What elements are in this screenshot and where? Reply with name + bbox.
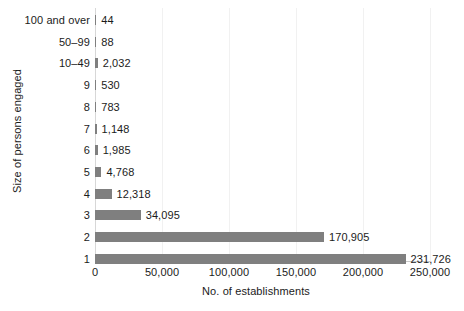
gridline [229, 8, 230, 262]
bar[interactable] [95, 124, 97, 134]
y-axis-tick-label: 8 [4, 101, 90, 113]
bar-chart: Size of persons engaged 100 and over50–9… [0, 0, 464, 311]
bar-value-label: 34,095 [146, 210, 180, 220]
bar-value-label: 231,726 [411, 254, 451, 264]
bar[interactable] [95, 189, 112, 199]
bar[interactable] [95, 145, 98, 155]
x-axis-title: No. of establishments [0, 285, 464, 297]
bar[interactable] [95, 37, 96, 47]
bar[interactable] [95, 210, 141, 220]
bar[interactable] [95, 232, 324, 242]
bar-value-label: 44 [101, 15, 113, 25]
bar-value-label: 88 [101, 37, 113, 47]
bar[interactable] [95, 254, 406, 264]
bar-value-label: 4,768 [106, 167, 134, 177]
gridline [430, 8, 431, 262]
y-axis-tick-label: 3 [4, 209, 90, 221]
y-axis-tick-label: 7 [4, 123, 90, 135]
bar-value-label: 12,318 [117, 189, 151, 199]
bar-value-label: 1,148 [102, 124, 130, 134]
y-axis-tick-label: 6 [4, 144, 90, 156]
bar[interactable] [95, 15, 96, 25]
bar-value-label: 530 [101, 80, 120, 90]
x-axis-tick-label: 100,000 [209, 266, 249, 278]
bar[interactable] [95, 102, 96, 112]
bar-value-label: 170,905 [329, 232, 369, 242]
y-axis-tick-label: 2 [4, 231, 90, 243]
y-axis-tick-label: 10–49 [4, 57, 90, 69]
gridline [363, 8, 364, 262]
x-axis-tick-label: 200,000 [343, 266, 383, 278]
x-axis-tick-label: 0 [92, 266, 98, 278]
y-axis-tick-label: 1 [4, 253, 90, 265]
y-axis-tick-label: 50–99 [4, 36, 90, 48]
x-axis-tick-label: 50,000 [145, 266, 179, 278]
gridline [162, 8, 163, 262]
y-axis-tick-label: 100 and over [4, 14, 90, 26]
bar[interactable] [95, 167, 101, 177]
plot-area: 44882,0325307831,1481,9854,76812,31834,0… [95, 8, 430, 262]
gridline [296, 8, 297, 262]
bar-value-label: 2,032 [103, 58, 131, 68]
x-axis-title-text: No. of establishments [202, 285, 310, 297]
y-axis-tick-label: 4 [4, 188, 90, 200]
x-axis-tick-label: 250,000 [410, 266, 450, 278]
bar[interactable] [95, 80, 96, 90]
bar[interactable] [95, 58, 98, 68]
bar-value-label: 1,985 [103, 145, 131, 155]
x-axis-tick-label: 150,000 [276, 266, 316, 278]
y-axis-tick-label: 5 [4, 166, 90, 178]
bar-value-label: 783 [101, 102, 120, 112]
y-axis-tick-labels: 100 and over50–9910–49987654321 [0, 0, 90, 262]
y-axis-tick-label: 9 [4, 79, 90, 91]
